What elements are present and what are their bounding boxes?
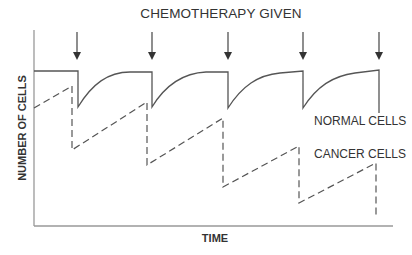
- normal-cells-line: [34, 70, 379, 113]
- normal-cells-label: NORMAL CELLS: [314, 114, 406, 128]
- y-axis-label: NUMBER OF CELLS: [16, 75, 28, 181]
- x-axis-label: TIME: [0, 232, 412, 244]
- dose-arrows: [77, 32, 379, 56]
- axes: [34, 30, 393, 226]
- cancer-cells-label: CANCER CELLS: [314, 147, 406, 161]
